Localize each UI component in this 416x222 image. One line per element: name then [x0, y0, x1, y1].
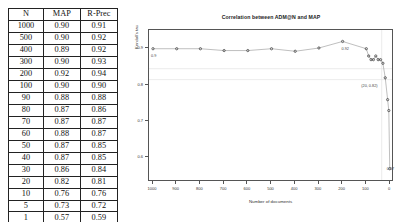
cell-map: 0.90 — [43, 56, 80, 68]
cell-map: 0.90 — [43, 32, 80, 44]
x-tick-mark — [389, 181, 390, 184]
cell-map: 0.86 — [43, 164, 80, 176]
x-tick-label: 400 — [285, 186, 303, 191]
cell-rprec: 0.76 — [80, 188, 117, 200]
y-tick-mark — [145, 84, 148, 85]
cell-rprec: 0.72 — [80, 200, 117, 212]
table-row: 100.760.76 — [9, 188, 118, 200]
y-tick-mark — [145, 120, 148, 121]
x-axis-title: Number of documents — [148, 199, 393, 204]
x-tick-label: 200 — [333, 186, 351, 191]
cell-rprec: 0.94 — [80, 68, 117, 80]
plot-area: 0.90.92(20, 0.82)0.57 — [148, 29, 393, 181]
cell-n: 500 — [9, 32, 44, 44]
cell-n: 20 — [9, 176, 44, 188]
cell-rprec: 0.88 — [80, 92, 117, 104]
cell-n: 30 — [9, 164, 44, 176]
x-tick-label: 1000 — [143, 186, 161, 191]
cell-rprec: 0.93 — [80, 56, 117, 68]
cell-map: 0.87 — [43, 140, 80, 152]
table-row: 4000.890.92 — [9, 44, 118, 56]
plot-inner — [149, 30, 392, 180]
table-row: 50.730.72 — [9, 200, 118, 212]
y-axis-title-wrap: Kendall's tau — [124, 2, 142, 72]
x-tick-label: 900 — [167, 186, 185, 191]
point-annotation: 0.57 — [387, 167, 394, 171]
cell-n: 90 — [9, 92, 44, 104]
cell-rprec: 0.87 — [80, 128, 117, 140]
cell-map: 0.89 — [43, 44, 80, 56]
y-tick-label: 0.6 — [129, 154, 143, 159]
cell-rprec: 0.87 — [80, 116, 117, 128]
x-tick-label: 0 — [380, 186, 398, 191]
cell-n: 80 — [9, 104, 44, 116]
cell-n: 5 — [9, 200, 44, 212]
cell-n: 400 — [9, 44, 44, 56]
x-tick-mark — [318, 181, 319, 184]
column-header-n: N — [9, 9, 44, 21]
table-row: 800.870.86 — [9, 104, 118, 116]
table-row: 10.570.59 — [9, 212, 118, 222]
cell-map: 0.87 — [43, 116, 80, 128]
cell-rprec: 0.92 — [80, 32, 117, 44]
y-tick-mark — [145, 47, 148, 48]
cell-map: 0.57 — [43, 212, 80, 222]
cell-rprec: 0.86 — [80, 104, 117, 116]
cell-rprec: 0.85 — [80, 140, 117, 152]
cell-n: 100 — [9, 80, 44, 92]
cell-rprec: 0.81 — [80, 176, 117, 188]
cell-rprec: 0.90 — [80, 80, 117, 92]
x-tick-label: 700 — [214, 186, 232, 191]
cell-map: 0.82 — [43, 176, 80, 188]
results-table: N MAP R-Prec 10000.900.915000.900.924000… — [8, 8, 118, 222]
x-tick-mark — [223, 181, 224, 184]
cell-rprec: 0.59 — [80, 212, 117, 222]
table-row: 2000.920.94 — [9, 68, 118, 80]
table-row: 300.860.84 — [9, 164, 118, 176]
cell-n: 60 — [9, 128, 44, 140]
table-row: 5000.900.92 — [9, 32, 118, 44]
table-row: 600.880.87 — [9, 128, 118, 140]
y-tick-label: 0.8 — [129, 82, 143, 87]
cell-rprec: 0.92 — [80, 44, 117, 56]
table-row: 900.880.88 — [9, 92, 118, 104]
chart-title: Correlation between ADM@N and MAP — [126, 14, 416, 20]
x-tick-mark — [294, 181, 295, 184]
x-tick-mark — [246, 181, 247, 184]
table-row: 3000.900.93 — [9, 56, 118, 68]
point-annotation: 0.9 — [151, 54, 156, 58]
cell-n: 40 — [9, 152, 44, 164]
cell-map: 0.88 — [43, 128, 80, 140]
cell-map: 0.87 — [43, 152, 80, 164]
series-canvas — [149, 30, 392, 180]
cell-n: 200 — [9, 68, 44, 80]
x-tick-label: 300 — [309, 186, 327, 191]
point-annotation: (20, 0.82) — [361, 84, 377, 88]
column-header-rprec: R-Prec — [80, 9, 117, 21]
x-tick-label: 500 — [262, 186, 280, 191]
data-line — [153, 41, 390, 168]
x-tick-label: 800 — [190, 186, 208, 191]
table-row: 10000.900.91 — [9, 20, 118, 32]
cell-map: 0.88 — [43, 92, 80, 104]
x-tick-label: 100 — [356, 186, 374, 191]
chart-panel: Correlation between ADM@N and MAP Kendal… — [126, 0, 416, 222]
cell-n: 300 — [9, 56, 44, 68]
point-annotation: 0.92 — [342, 47, 349, 51]
x-tick-mark — [270, 181, 271, 184]
page-root: N MAP R-Prec 10000.900.915000.900.924000… — [0, 0, 416, 222]
x-tick-mark — [152, 181, 153, 184]
table-row: 500.870.85 — [9, 140, 118, 152]
cell-n: 1 — [9, 212, 44, 222]
table-header-row: N MAP R-Prec — [9, 9, 118, 21]
x-tick-mark — [175, 181, 176, 184]
cell-map: 0.90 — [43, 20, 80, 32]
cell-map: 0.73 — [43, 200, 80, 212]
cell-n: 10 — [9, 188, 44, 200]
cell-map: 0.76 — [43, 188, 80, 200]
table-body: 10000.900.915000.900.924000.890.923000.9… — [9, 20, 118, 222]
cell-map: 0.90 — [43, 80, 80, 92]
x-tick-mark — [365, 181, 366, 184]
cell-rprec: 0.91 — [80, 20, 117, 32]
table-row: 700.870.87 — [9, 116, 118, 128]
